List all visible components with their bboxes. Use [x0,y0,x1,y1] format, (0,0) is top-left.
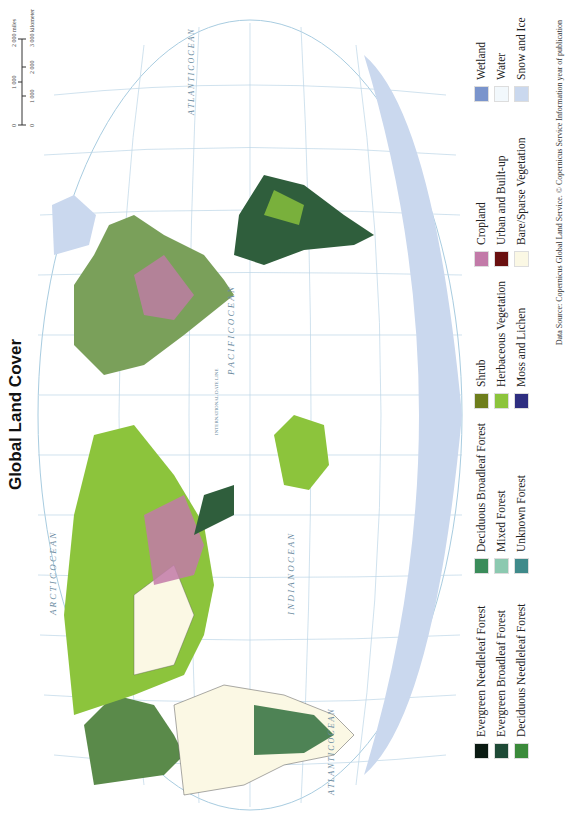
swatch-herbaceous [494,393,509,409]
legend-item: Snow and Ice [512,17,530,102]
legend-item: Evergreen Needleleaf Forest [472,604,490,759]
svg-text:0: 0 [11,124,17,127]
pacific-ocean-label: P A C I F I C O C E A N [226,286,236,376]
legend-item: Deciduous Broadleaf Forest [472,423,490,574]
legend-item: Deciduous Needleleaf Forest [512,604,530,759]
legend-group-2: Deciduous Broadleaf Forest Mixed Forest … [472,423,532,574]
legend-item: Wetland [472,17,490,102]
swatch-deciduous-needleleaf [514,743,529,759]
legend-group-5: Wetland Water Snow and Ice [472,17,532,102]
legend-item: Unknown Forest [512,423,530,574]
swatch-snow-ice [514,86,529,102]
data-source-credit: Data Source: Copernicus Global Land Serv… [555,20,564,345]
legend: Evergreen Needleleaf Forest Evergreen Br… [472,0,552,759]
arctic-ocean-label: A R C T I C O C E A N [48,532,58,616]
world-map: A R C T I C O C E A N P A C I F I C O C … [34,15,466,815]
legend-item: Moss and Lichen [512,281,530,409]
svg-text:2 000 miles: 2 000 miles [11,18,17,47]
swatch-shrub [474,393,489,409]
swatch-urban [494,251,509,267]
indian-ocean-label: I N D I A N O C E A N [286,533,296,616]
swatch-deciduous-broadleaf [474,558,489,574]
legend-group-4: Cropland Urban and Built-up Bare/Sparse … [472,138,532,267]
swatch-mixed-forest [494,558,509,574]
legend-item: Evergreen Broadleaf Forest [492,604,510,759]
legend-item: Herbaceous Vegetation [492,281,510,409]
swatch-unknown-forest [514,558,529,574]
swatch-cropland [474,251,489,267]
atlantic-ocean-label-south: A T L A N T I C O C E A N [327,709,336,796]
swatch-bare-sparse [514,251,529,267]
legend-item: Cropland [472,138,490,267]
legend-group-3: Shrub Herbaceous Vegetation Moss and Lic… [472,281,532,409]
legend-item: Urban and Built-up [492,138,510,267]
swatch-wetland [474,86,489,102]
swatch-evergreen-broadleaf [494,743,509,759]
legend-item: Shrub [472,281,490,409]
legend-item: Water [492,17,510,102]
legend-item: Bare/Sparse Vegetation [512,138,530,267]
legend-group-1: Evergreen Needleleaf Forest Evergreen Br… [472,604,532,759]
date-line-label: INTERNATIONAL DATE LINE [214,369,219,435]
swatch-moss-lichen [514,393,529,409]
swatch-water [494,86,509,102]
map-page: Global Land Cover 0 1 000 2 000 miles 0 … [0,0,572,829]
svg-text:1 000: 1 000 [11,76,17,90]
legend-item: Mixed Forest [492,423,510,574]
atlantic-ocean-label-north: A T L A N T I C O C E A N [187,29,196,116]
swatch-evergreen-needleleaf [474,743,489,759]
